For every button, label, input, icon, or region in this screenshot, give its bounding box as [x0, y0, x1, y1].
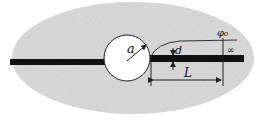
- thickness-label: d: [175, 44, 182, 57]
- length-label: L: [183, 66, 192, 80]
- bar-right: [150, 55, 244, 62]
- radius-label: a: [127, 41, 135, 56]
- far-field-label: ∞: [227, 45, 235, 55]
- bar-left: [10, 59, 105, 65]
- field-label: φ₀: [217, 27, 228, 38]
- diagram: a d L φ₀ ∞: [0, 0, 258, 121]
